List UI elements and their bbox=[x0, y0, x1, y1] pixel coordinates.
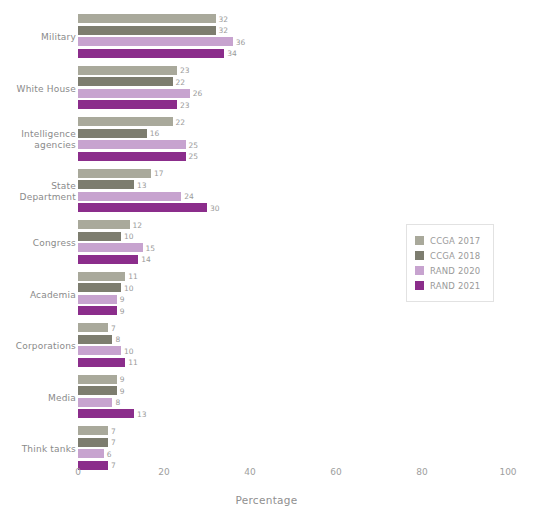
bar-value-label: 8 bbox=[112, 398, 120, 407]
bar-ccga-2017 bbox=[78, 14, 216, 23]
bar-rand-2021 bbox=[78, 49, 224, 58]
bar-row: 36 bbox=[78, 37, 508, 46]
bar-value-label: 10 bbox=[121, 346, 134, 355]
bar-value-label: 25 bbox=[186, 140, 199, 149]
bar-value-label: 32 bbox=[216, 26, 229, 35]
bar-value-label: 24 bbox=[181, 192, 194, 201]
bar-row: 9 bbox=[78, 386, 508, 395]
x-axis-tick-label: 20 bbox=[158, 467, 169, 477]
bar-rand-2020 bbox=[78, 37, 233, 46]
bar-value-label: 11 bbox=[125, 358, 138, 367]
category-label: Academia bbox=[0, 289, 76, 300]
bar-rand-2020 bbox=[78, 398, 112, 407]
bar-ccga-2017 bbox=[78, 323, 108, 332]
bar-row: 23 bbox=[78, 66, 508, 75]
bar-value-label: 30 bbox=[207, 203, 220, 212]
bar-value-label: 13 bbox=[134, 180, 147, 189]
bar-value-label: 6 bbox=[104, 449, 112, 458]
legend-item[interactable]: CCGA 2017 bbox=[415, 233, 486, 248]
bar-rand-2020 bbox=[78, 140, 186, 149]
bar-value-label: 36 bbox=[233, 37, 246, 46]
bar-row: 8 bbox=[78, 398, 508, 407]
legend-label: CCGA 2017 bbox=[430, 236, 480, 246]
bar-value-label: 12 bbox=[130, 220, 143, 229]
bar-value-label: 32 bbox=[216, 14, 229, 23]
bar-ccga-2017 bbox=[78, 117, 173, 126]
bar-row: 22 bbox=[78, 117, 508, 126]
bar-value-label: 22 bbox=[173, 77, 186, 86]
legend-label: RAND 2020 bbox=[430, 266, 480, 276]
bar-row: 32 bbox=[78, 14, 508, 23]
legend-swatch-icon bbox=[415, 266, 424, 275]
x-axis-tick-label: 0 bbox=[75, 467, 81, 477]
bar-row: 9 bbox=[78, 375, 508, 384]
bar-rand-2021 bbox=[78, 409, 134, 418]
bar-ccga-2018 bbox=[78, 283, 121, 292]
bar-rand-2020 bbox=[78, 295, 117, 304]
bar-ccga-2018 bbox=[78, 232, 121, 241]
bar-row: 34 bbox=[78, 49, 508, 58]
bar-rand-2021 bbox=[78, 306, 117, 315]
bar-row: 26 bbox=[78, 89, 508, 98]
bar-value-label: 7 bbox=[108, 426, 116, 435]
chart-legend: CCGA 2017CCGA 2018RAND 2020RAND 2021 bbox=[406, 224, 494, 302]
bar-value-label: 8 bbox=[112, 335, 120, 344]
bar-row: 6 bbox=[78, 449, 508, 458]
bar-group: White House23222623 bbox=[0, 66, 533, 112]
x-axis-tick-label: 40 bbox=[244, 467, 255, 477]
bar-value-label: 16 bbox=[147, 129, 160, 138]
category-label: StateDepartment bbox=[0, 181, 76, 203]
bar-row: 7 bbox=[78, 323, 508, 332]
bar-value-label: 7 bbox=[108, 438, 116, 447]
bar-value-label: 17 bbox=[151, 169, 164, 178]
bar-row: 23 bbox=[78, 100, 508, 109]
bar-ccga-2017 bbox=[78, 66, 177, 75]
legend-swatch-icon bbox=[415, 236, 424, 245]
bar-row: 16 bbox=[78, 129, 508, 138]
bar-ccga-2018 bbox=[78, 129, 147, 138]
bar-value-label: 14 bbox=[138, 255, 151, 264]
bar-value-label: 9 bbox=[117, 295, 125, 304]
bar-row: 7 bbox=[78, 438, 508, 447]
category-label: Intelligenceagencies bbox=[0, 129, 76, 151]
x-axis-title: Percentage bbox=[0, 494, 533, 506]
bar-ccga-2018 bbox=[78, 386, 117, 395]
bar-row: 22 bbox=[78, 77, 508, 86]
bar-row: 11 bbox=[78, 358, 508, 367]
bar-group: Corporations781011 bbox=[0, 323, 533, 369]
bar-rand-2020 bbox=[78, 449, 104, 458]
category-label: Corporations bbox=[0, 341, 76, 352]
legend-item[interactable]: RAND 2021 bbox=[415, 278, 486, 293]
bar-value-label: 22 bbox=[173, 117, 186, 126]
bar-group: Intelligenceagencies22162525 bbox=[0, 117, 533, 163]
bar-value-label: 9 bbox=[117, 306, 125, 315]
bar-ccga-2018 bbox=[78, 77, 173, 86]
bar-value-label: 10 bbox=[121, 283, 134, 292]
bar-ccga-2017 bbox=[78, 375, 117, 384]
bar-rand-2021 bbox=[78, 358, 125, 367]
bar-row: 7 bbox=[78, 426, 508, 435]
bar-row: 32 bbox=[78, 26, 508, 35]
bar-ccga-2017 bbox=[78, 426, 108, 435]
bar-rand-2021 bbox=[78, 203, 207, 212]
category-label: Congress bbox=[0, 238, 76, 249]
bar-rand-2020 bbox=[78, 89, 190, 98]
bar-ccga-2018 bbox=[78, 26, 216, 35]
legend-item[interactable]: RAND 2020 bbox=[415, 263, 486, 278]
bar-row: 13 bbox=[78, 409, 508, 418]
bar-rand-2020 bbox=[78, 192, 181, 201]
bar-row: 9 bbox=[78, 306, 508, 315]
category-label: White House bbox=[0, 83, 76, 94]
bar-value-label: 34 bbox=[224, 49, 237, 58]
bar-rand-2020 bbox=[78, 346, 121, 355]
bar-row: 8 bbox=[78, 335, 508, 344]
x-axis: Percentage 020406080100 bbox=[0, 463, 533, 520]
legend-item[interactable]: CCGA 2018 bbox=[415, 248, 486, 263]
bar-ccga-2018 bbox=[78, 335, 112, 344]
bar-row: 13 bbox=[78, 180, 508, 189]
bar-group: Media99813 bbox=[0, 375, 533, 421]
bar-value-label: 23 bbox=[177, 66, 190, 75]
bar-value-label: 11 bbox=[125, 272, 138, 281]
bar-row: 10 bbox=[78, 346, 508, 355]
bar-chart: Military32323634White House23222623Intel… bbox=[0, 0, 533, 520]
